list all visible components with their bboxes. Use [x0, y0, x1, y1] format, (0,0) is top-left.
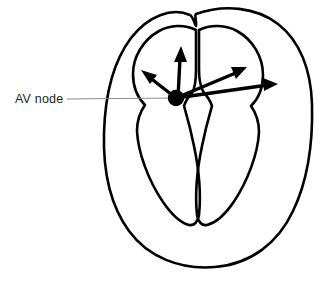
av-node-label: AV node — [15, 92, 63, 106]
figure-canvas: AV node — [0, 0, 331, 285]
av-node-dot — [168, 90, 184, 106]
heart-conduction-figure: AV node — [0, 0, 331, 285]
figure-background — [0, 0, 331, 285]
